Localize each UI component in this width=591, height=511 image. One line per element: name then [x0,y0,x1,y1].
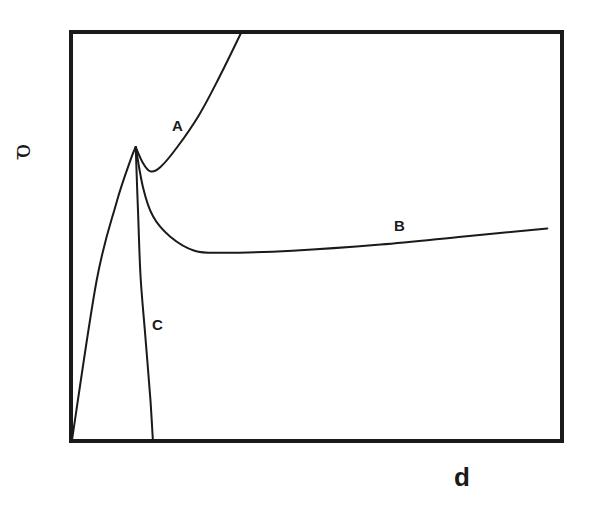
curve-rising-branch [72,147,136,440]
plot-frame [71,32,562,441]
y-axis-label: σ [8,144,36,160]
curve-c-label: C [152,316,163,333]
curve-a-label: A [172,117,183,134]
curve-b-label: B [394,217,405,234]
x-axis-label: d [454,462,470,492]
curve-a [136,33,241,172]
curve-b [136,147,548,253]
chart-canvas: A B C d σ [0,0,591,511]
